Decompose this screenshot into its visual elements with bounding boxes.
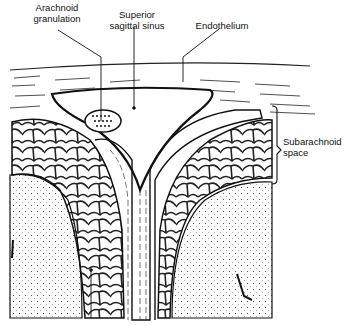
label-superior-sagittal-sinus: Superior sagittal sinus	[98, 9, 176, 31]
subarachnoid-bracket	[272, 106, 281, 184]
label-subarachnoid-space: Subarachnoid space	[283, 136, 345, 158]
label-arachnoid-granulation: Arachnoid granulation	[18, 2, 96, 24]
label-endothelium: Endothelium	[186, 20, 258, 31]
meninges-illustration	[0, 0, 346, 326]
